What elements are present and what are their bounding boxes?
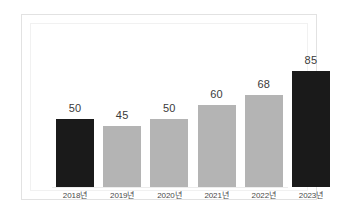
axis-baseline bbox=[52, 187, 288, 188]
category-label: 2019년 bbox=[103, 191, 141, 201]
bar-group[interactable]: 50 bbox=[56, 35, 94, 187]
plot-area: 50 45 50 60 68 bbox=[52, 35, 334, 187]
chart-card: 50 45 50 60 68 bbox=[21, 14, 317, 200]
category-label: 2022년 bbox=[245, 191, 283, 201]
bar-group[interactable]: 45 bbox=[103, 35, 141, 187]
bar-rect[interactable] bbox=[292, 71, 330, 187]
bar-group[interactable]: 85 bbox=[292, 35, 330, 187]
bar-value-label: 68 bbox=[257, 79, 270, 90]
category-label: 2021년 bbox=[198, 191, 236, 201]
bar-value-label: 45 bbox=[116, 110, 129, 121]
bar-group[interactable]: 50 bbox=[150, 35, 188, 187]
bar-rect[interactable] bbox=[56, 119, 94, 187]
bar-value-label: 85 bbox=[305, 55, 318, 66]
bar-rect[interactable] bbox=[198, 105, 236, 187]
bar-series: 50 45 50 60 68 bbox=[52, 35, 334, 187]
bar-rect[interactable] bbox=[103, 126, 141, 187]
bar-group[interactable]: 68 bbox=[245, 35, 283, 187]
chart-screenshot: 50 45 50 60 68 bbox=[0, 0, 340, 218]
category-label: 2023년 bbox=[292, 191, 330, 201]
bar-value-label: 50 bbox=[163, 103, 176, 114]
category-label: 2020년 bbox=[150, 191, 188, 201]
bar-group[interactable]: 60 bbox=[198, 35, 236, 187]
bar-value-label: 60 bbox=[210, 89, 223, 100]
bar-rect[interactable] bbox=[245, 95, 283, 187]
bar-rect[interactable] bbox=[150, 119, 188, 187]
category-axis: 2018년 2019년 2020년 2021년 2022년 2023년 bbox=[52, 191, 334, 201]
bar-value-label: 50 bbox=[69, 103, 82, 114]
category-label: 2018년 bbox=[56, 191, 94, 201]
